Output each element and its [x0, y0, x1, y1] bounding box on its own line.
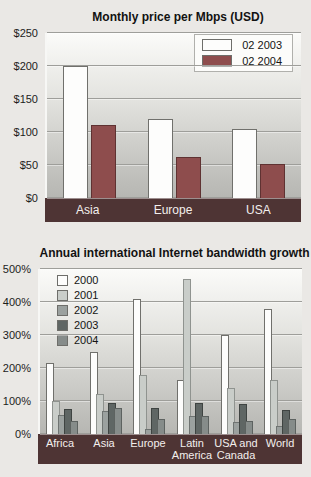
bandwidth-growth-chart: Annual international Internet bandwidth … — [0, 246, 311, 464]
bar-2004-europe — [157, 419, 165, 434]
legend-swatch-icon — [57, 290, 68, 301]
y-tick-label: 200% — [3, 362, 31, 374]
gridline — [40, 334, 302, 335]
bar-2001-europe — [139, 375, 147, 434]
legend-label: 2001 — [74, 289, 98, 301]
price-per-mbps-chart: Monthly price per Mbps (USD) $250$200$15… — [0, 10, 311, 222]
y-tick-label: $100 — [14, 126, 38, 138]
bar-2004-africa — [70, 421, 78, 434]
bar-group-usa-and-canada — [215, 269, 259, 434]
bar-group-europe — [127, 269, 171, 434]
legend-item: 2001 — [57, 289, 98, 301]
legend-label: 02 2003 — [242, 39, 282, 51]
x-axis-spacer — [0, 198, 45, 222]
y-tick-label: 400% — [3, 296, 31, 308]
legend-item: 2000 — [57, 274, 98, 286]
x-category-label: Latin America — [170, 437, 214, 461]
bar-02-2004-asia — [91, 125, 116, 198]
legend-item: 2002 — [57, 304, 98, 316]
bar-02-2003-asia — [63, 66, 88, 198]
chart-title: Monthly price per Mbps (USD) — [0, 10, 311, 24]
chart-title: Annual international Internet bandwidth … — [0, 246, 311, 260]
growth-chart-legend: 20002001200220032004 — [57, 274, 98, 346]
gridline — [40, 367, 302, 368]
gridline — [40, 268, 302, 269]
bar-group-latin-america — [171, 269, 215, 434]
price-chart-legend: 02 200302 2004 — [194, 34, 293, 72]
x-category-label: World — [258, 437, 302, 449]
bar-02-2003-europe — [148, 119, 173, 198]
x-category-label: Europe — [126, 437, 170, 449]
gridline — [40, 400, 302, 401]
legend-label: 2003 — [74, 319, 98, 331]
price-chart-category-band: AsiaEuropeUSA — [45, 198, 301, 222]
legend-swatch-icon — [57, 320, 68, 331]
y-tick-label: 100% — [3, 395, 31, 407]
y-tick-label: $200 — [14, 60, 38, 72]
growth-chart-y-axis: 500%400%300%200%100%0% — [0, 269, 38, 434]
y-tick-label: $150 — [14, 93, 38, 105]
legend-swatch-icon — [57, 335, 68, 346]
y-tick-label: $50 — [20, 159, 38, 171]
legend-swatch-icon — [57, 275, 68, 286]
y-tick-label: 300% — [3, 329, 31, 341]
bar-2004-latin-america — [201, 416, 209, 434]
bar-02-2004-usa — [260, 164, 285, 198]
price-chart-x-axis: AsiaEuropeUSA — [0, 198, 311, 222]
y-tick-label: 0% — [15, 428, 31, 440]
bar-group-world — [258, 269, 302, 434]
legend-item: 2003 — [57, 319, 98, 331]
legend-label: 2004 — [74, 334, 98, 346]
y-tick-label: $250 — [14, 27, 38, 39]
bar-2004-world — [288, 419, 296, 434]
gridline — [47, 32, 301, 33]
chart-body: 500%400%300%200%100%0% 20002001200220032… — [0, 269, 311, 434]
bar-02-2004-europe — [176, 157, 201, 198]
growth-chart-category-band: AfricaAsiaEuropeLatin AmericaUSA and Can… — [38, 434, 302, 464]
chart-body: $250$200$150$100$50$0 02 200302 2004 — [0, 33, 311, 198]
x-category-label: Asia — [45, 203, 130, 217]
bar-group-asia — [47, 33, 132, 198]
y-tick-label: $0 — [26, 192, 38, 204]
bar-2004-asia — [114, 408, 122, 434]
growth-chart-x-axis: AfricaAsiaEuropeLatin AmericaUSA and Can… — [0, 434, 311, 464]
bar-2001-latin-america — [183, 279, 191, 434]
bar-02-2003-usa — [232, 129, 257, 198]
x-category-label: Asia — [82, 437, 126, 449]
growth-chart-plot-area: 20002001200220032004 — [38, 269, 302, 434]
x-category-label: USA and Canada — [214, 437, 258, 461]
gridline — [40, 301, 302, 302]
report-page: { "page": { "background": "#eae8e5", "ba… — [0, 0, 311, 477]
x-category-label: USA — [216, 203, 301, 217]
legend-swatch-icon — [57, 305, 68, 316]
legend-item: 02 2003 — [202, 39, 282, 51]
x-category-label: Africa — [38, 437, 82, 449]
legend-label: 2000 — [74, 274, 98, 286]
x-category-label: Europe — [130, 203, 215, 217]
legend-swatch-icon — [202, 39, 232, 51]
gridline — [40, 433, 302, 434]
bar-2004-usa-and-canada — [245, 421, 253, 434]
legend-item: 2004 — [57, 334, 98, 346]
y-tick-label: 500% — [3, 263, 31, 275]
price-chart-y-axis: $250$200$150$100$50$0 — [0, 33, 45, 198]
legend-label: 2002 — [74, 304, 98, 316]
price-chart-plot-area: 02 200302 2004 — [45, 33, 301, 198]
